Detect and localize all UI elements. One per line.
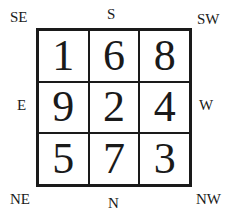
grid-cell: 9 xyxy=(38,82,89,134)
grid-cell: 1 xyxy=(38,30,89,82)
grid-cell: 7 xyxy=(89,133,140,185)
grid-cell: 5 xyxy=(38,133,89,185)
label-nw: NW xyxy=(196,192,221,207)
lo-shu-grid: 1 6 8 9 2 4 5 7 3 xyxy=(36,28,192,187)
label-e: E xyxy=(17,98,26,113)
grid-cell: 3 xyxy=(139,133,190,185)
grid-cell: 4 xyxy=(139,82,190,134)
label-se: SE xyxy=(10,10,28,25)
label-n: N xyxy=(108,196,119,211)
label-w: W xyxy=(199,98,213,113)
label-s: S xyxy=(107,7,115,22)
grid-cell: 2 xyxy=(89,82,140,134)
label-ne: NE xyxy=(10,192,30,207)
grid-cell: 6 xyxy=(89,30,140,82)
grid-cell: 8 xyxy=(139,30,190,82)
label-sw: SW xyxy=(197,12,220,27)
